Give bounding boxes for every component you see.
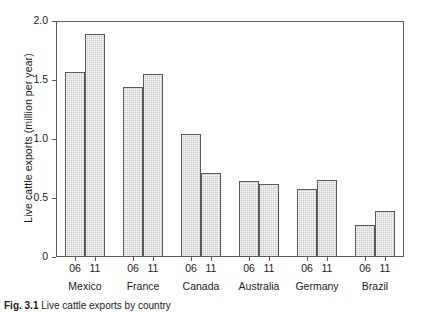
x-year-label-france-11: 11 (148, 262, 159, 274)
y-tick-label: 0 (42, 250, 48, 263)
x-year-label-france-06: 06 (127, 262, 139, 274)
x-year-label-australia-11: 11 (264, 262, 275, 274)
bar-canada-06 (181, 134, 201, 257)
caption-text: Live cattle exports by country (41, 300, 171, 311)
x-tick-mark (95, 257, 96, 261)
x-year-label-canada-06: 06 (185, 262, 197, 274)
x-year-label-mexico-11: 11 (90, 262, 101, 274)
x-tick-mark (191, 257, 192, 261)
bar-brazil-11 (375, 211, 395, 257)
x-group-label-france: France (127, 280, 160, 292)
bar-france-06 (123, 87, 143, 257)
x-group-label-canada: Canada (183, 280, 220, 292)
x-tick-mark (269, 257, 270, 261)
bar-france-11 (143, 74, 163, 257)
x-tick-mark (365, 257, 366, 261)
y-tick-label: 1.0 (33, 132, 48, 145)
x-group-label-brazil: Brazil (362, 280, 388, 292)
x-tick-mark (307, 257, 308, 261)
y-tick-label: 2.0 (33, 14, 48, 27)
x-tick-mark (153, 257, 154, 261)
bar-canada-11 (201, 173, 221, 257)
y-tick-mark (52, 257, 56, 258)
bar-brazil-06 (355, 225, 375, 257)
bar-australia-11 (259, 184, 279, 257)
caption-label: Fig. 3.1 (4, 300, 38, 311)
y-tick-mark (52, 80, 56, 81)
x-year-label-australia-06: 06 (243, 262, 255, 274)
y-tick-label: 1.5 (33, 73, 48, 86)
bar-mexico-06 (65, 72, 85, 257)
figure-caption: Fig. 3.1 Live cattle exports by country (4, 300, 418, 312)
y-tick-mark (52, 21, 56, 22)
x-tick-mark (249, 257, 250, 261)
x-group-label-australia: Australia (239, 280, 280, 292)
x-year-label-germany-11: 11 (322, 262, 333, 274)
x-tick-mark (75, 257, 76, 261)
bar-australia-06 (239, 181, 259, 257)
x-year-label-canada-11: 11 (206, 262, 217, 274)
bar-mexico-11 (85, 34, 105, 257)
x-group-label-mexico: Mexico (68, 280, 101, 292)
bar-germany-06 (297, 189, 317, 257)
x-year-label-brazil-11: 11 (380, 262, 391, 274)
x-tick-mark (327, 257, 328, 261)
x-tick-mark (211, 257, 212, 261)
plot-area (56, 21, 404, 257)
y-tick-label: 0.5 (33, 191, 48, 204)
x-year-label-germany-06: 06 (301, 262, 313, 274)
x-year-label-mexico-06: 06 (69, 262, 81, 274)
y-tick-mark (52, 139, 56, 140)
x-tick-mark (385, 257, 386, 261)
y-tick-mark (52, 198, 56, 199)
y-axis-title: Live cattle exports (million per year) (22, 18, 34, 258)
x-group-label-germany: Germany (295, 280, 338, 292)
x-year-label-brazil-06: 06 (359, 262, 371, 274)
bar-germany-11 (317, 180, 337, 257)
x-tick-mark (133, 257, 134, 261)
